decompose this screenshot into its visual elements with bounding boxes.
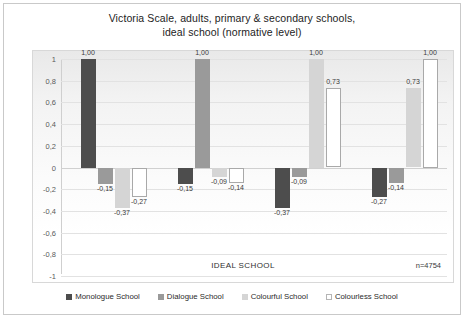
bar[interactable] (115, 168, 130, 208)
bar[interactable] (406, 88, 421, 167)
bar[interactable] (81, 59, 96, 168)
legend-swatch-icon (242, 294, 248, 300)
bar-value-label: 0,73 (406, 78, 420, 85)
legend-label: Colourful School (251, 292, 308, 301)
bar-group: 1,00-0,15-0,37-0,27 (61, 59, 158, 274)
bar-value-label: -0,09 (291, 178, 307, 185)
bar-value-label: 1,00 (309, 49, 323, 56)
bar-group: -0,27-0,140,731,00 (352, 59, 449, 274)
bar-group: -0,151,00-0,09-0,14 (158, 59, 255, 274)
chart-title: Victoria Scale, adults, primary & second… (4, 11, 460, 39)
legend-item[interactable]: Monologue School (66, 292, 140, 301)
bar-value-label: 0,73 (326, 78, 340, 85)
bar[interactable] (275, 168, 290, 208)
legend-item[interactable]: Dialogue School (158, 292, 224, 301)
bar-value-label: -0,27 (131, 198, 147, 205)
bar[interactable] (212, 168, 227, 178)
bar-value-label: -0,37 (114, 209, 130, 216)
bar-value-label: -0,27 (371, 198, 387, 205)
chart-legend: Monologue SchoolDialogue SchoolColourful… (4, 292, 460, 301)
bar[interactable] (178, 168, 193, 184)
chart-title-line-2: ideal school (normative level) (4, 25, 460, 39)
plot-frame: 10,80,60,40,20-0,2-0,4-0,6-0,8-1 1,00-0,… (32, 50, 454, 283)
bar-value-label: 1,00 (81, 49, 95, 56)
bar[interactable] (132, 168, 147, 197)
legend-label: Monologue School (75, 292, 140, 301)
bar-value-label: 1,00 (423, 49, 437, 56)
legend-label: Dialogue School (167, 292, 224, 301)
y-axis-tick-label: 1 (52, 55, 56, 64)
gridline (61, 276, 447, 277)
y-axis-tick-label: -0,4 (43, 206, 56, 215)
bar-value-label: -0,37 (274, 209, 290, 216)
chart-figure: Victoria Scale, adults, primary & second… (3, 3, 461, 315)
y-axis-tick-label: 0,6 (46, 98, 56, 107)
bar[interactable] (389, 168, 404, 183)
bar-value-label: -0,15 (177, 185, 193, 192)
legend-swatch-icon (326, 294, 332, 300)
legend-label: Colourless School (335, 292, 398, 301)
plot-area: 1,00-0,15-0,37-0,27-0,151,00-0,09-0,14-0… (61, 59, 447, 274)
bar[interactable] (423, 59, 438, 168)
sample-size-label: n=4754 (416, 261, 441, 270)
y-axis-tick-label: -1 (49, 272, 56, 281)
y-axis-tick-label: 0 (52, 163, 56, 172)
bar[interactable] (98, 168, 113, 184)
y-axis: 10,80,60,40,20-0,2-0,4-0,6-0,8-1 (33, 51, 59, 282)
x-axis-label: IDEAL SCHOOL (33, 261, 453, 270)
legend-swatch-icon (158, 294, 164, 300)
bar-value-label: -0,09 (211, 178, 227, 185)
bar[interactable] (292, 168, 307, 178)
y-axis-tick-label: 0,2 (46, 141, 56, 150)
y-axis-tick-label: -0,2 (43, 185, 56, 194)
chart-title-line-1: Victoria Scale, adults, primary & second… (4, 11, 460, 25)
bar[interactable] (372, 168, 387, 197)
y-axis-tick-label: -0,8 (43, 250, 56, 259)
y-axis-tick-label: 0,4 (46, 120, 56, 129)
bar-value-label: -0,14 (228, 184, 244, 191)
legend-swatch-icon (66, 294, 72, 300)
bar[interactable] (195, 59, 210, 168)
y-axis-tick-label: 0,8 (46, 76, 56, 85)
y-axis-tick-label: -0,6 (43, 228, 56, 237)
bar-value-label: -0,14 (388, 184, 404, 191)
legend-item[interactable]: Colourful School (242, 292, 308, 301)
legend-item[interactable]: Colourless School (326, 292, 398, 301)
bar[interactable] (309, 59, 324, 168)
bar-group: -0,37-0,091,000,73 (255, 59, 352, 274)
bar-value-label: 1,00 (195, 49, 209, 56)
bar[interactable] (229, 168, 244, 183)
bar-value-label: -0,15 (97, 185, 113, 192)
bar[interactable] (326, 88, 341, 167)
